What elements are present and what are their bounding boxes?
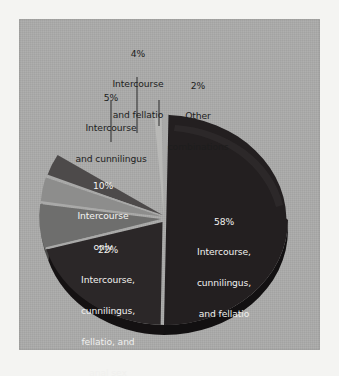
slice-label-58-line3: and fellatio bbox=[170, 309, 278, 319]
slice-label-22: 22% Intercourse, cunnilingus, fellatio, … bbox=[56, 224, 160, 376]
slice-label-58-line2: cunnilingus, bbox=[170, 278, 278, 288]
slice-label-58: 58% Intercourse, cunnilingus, and fellat… bbox=[170, 196, 278, 340]
slice-label-22-line3: fellatio, and bbox=[56, 337, 160, 347]
figure-container: 4% Intercourse and fellatio 2% Other com… bbox=[0, 0, 339, 376]
slice-label-22-line4: anal sex bbox=[56, 368, 160, 376]
slice-label-58-percent: 58% bbox=[170, 217, 278, 227]
slice-label-10-line1: Intercourse bbox=[57, 211, 149, 221]
slice-label-22-line2: cunnilingus, bbox=[56, 306, 160, 316]
slice-label-22-percent: 22% bbox=[56, 245, 160, 255]
slice-label-22-line1: Intercourse, bbox=[56, 275, 160, 285]
slice-label-5-line1: Intercourse bbox=[40, 123, 182, 133]
slice-label-4-percent: 4% bbox=[94, 49, 182, 59]
slice-label-58-line1: Intercourse, bbox=[170, 247, 278, 257]
slice-label-5-percent: 5% bbox=[40, 93, 182, 103]
slice-label-10-percent: 10% bbox=[57, 181, 149, 191]
